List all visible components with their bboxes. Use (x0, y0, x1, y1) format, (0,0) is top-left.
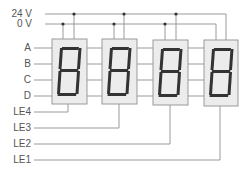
label-le4: LE4 (0, 107, 31, 117)
label-le1: LE1 (0, 155, 31, 165)
display-1 (52, 39, 87, 104)
line-le1 (34, 106, 220, 160)
display-2 (102, 39, 137, 104)
label-c: C (0, 75, 31, 85)
label-d: D (0, 91, 31, 101)
rail-0v (45, 24, 216, 40)
label-le3: LE3 (0, 123, 31, 133)
display-3 (153, 40, 188, 105)
label-a: A (0, 43, 31, 53)
wiring-canvas (0, 0, 244, 172)
wiring-diagram: 24 V 0 V A B C D LE4 LE3 LE2 LE1 (0, 0, 244, 172)
label-le2: LE2 (0, 139, 31, 149)
power-rails (45, 14, 226, 40)
line-le3 (34, 104, 119, 128)
label-0v: 0 V (0, 19, 32, 29)
rail-24v (45, 14, 226, 40)
latch-lines (34, 104, 220, 160)
label-b: B (0, 59, 31, 69)
display-4 (204, 40, 238, 106)
line-le2 (34, 105, 170, 144)
line-le4 (34, 104, 68, 112)
